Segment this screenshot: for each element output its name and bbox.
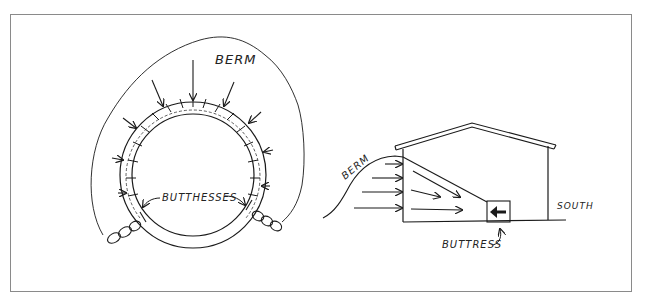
berm-label-plan: BERM	[215, 52, 256, 67]
buttresses-label: BUTTHESSES	[162, 192, 237, 203]
berm-outline	[91, 37, 304, 235]
buttress-right	[246, 200, 283, 233]
interior-slope	[403, 157, 487, 202]
reinforcement-ticks	[126, 98, 260, 196]
diagram-canvas: BERM BUTTHESSES	[0, 0, 645, 304]
south-label: SOUTH	[557, 201, 594, 211]
internal-thrust-arrows	[411, 171, 462, 210]
right-section-diagram	[323, 123, 566, 245]
wall-outer	[120, 102, 266, 248]
buttress-label: BUTTRESS	[442, 239, 502, 250]
left-plan-diagram	[91, 37, 304, 248]
buttress-left	[106, 212, 146, 245]
wall-inner	[132, 114, 254, 236]
roof	[395, 123, 556, 150]
ground-line	[403, 220, 566, 222]
buttress-arrow-icon	[490, 206, 506, 218]
buttresses-pointer-left	[143, 198, 160, 207]
